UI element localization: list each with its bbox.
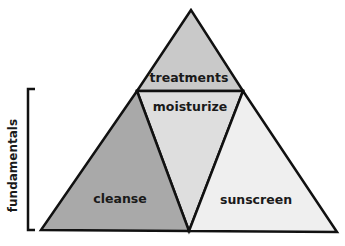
segment-label-moisturize: moisturize (153, 99, 227, 114)
segment-label-cleanse: cleanse (93, 191, 146, 206)
skincare-pyramid-diagram: treatmentsmoisturizecleansesunscreen fun… (0, 0, 345, 246)
pyramid-segments: treatmentsmoisturizecleansesunscreen (41, 10, 337, 232)
bracket-line (28, 89, 35, 230)
segment-label-sunscreen: sunscreen (220, 192, 292, 207)
fundamentals-bracket: fundamentals (6, 89, 35, 230)
segment-label-treatments: treatments (150, 70, 229, 85)
fundamentals-label: fundamentals (6, 119, 20, 212)
